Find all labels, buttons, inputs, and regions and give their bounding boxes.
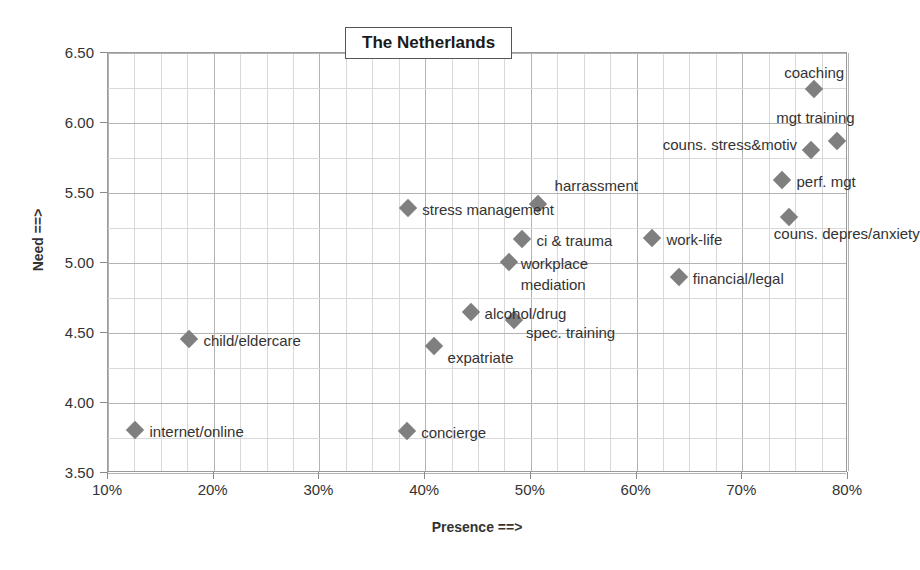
x-axis-tick bbox=[847, 472, 848, 479]
y-axis-title: Need ==> bbox=[30, 180, 46, 300]
y-axis-tick-label: 4.00 bbox=[34, 394, 94, 411]
x-axis-tick bbox=[107, 472, 108, 479]
data-point-label: mgt training bbox=[776, 109, 854, 126]
y-axis-tick bbox=[100, 332, 107, 333]
data-point-marker[interactable] bbox=[126, 420, 144, 438]
data-point-label: perf. mgt bbox=[796, 173, 855, 190]
data-point-label: spec. training bbox=[526, 324, 615, 341]
data-point-label: work-life bbox=[666, 230, 722, 247]
y-axis-tick bbox=[100, 402, 107, 403]
gridline-horizontal bbox=[108, 298, 846, 299]
y-axis-tick bbox=[100, 52, 107, 53]
gridline-vertical bbox=[187, 53, 188, 471]
gridline-horizontal bbox=[108, 368, 846, 369]
gridline-horizontal bbox=[108, 193, 846, 194]
x-axis-tick bbox=[636, 472, 637, 479]
gridline-vertical bbox=[319, 53, 320, 471]
gridline-horizontal bbox=[108, 263, 846, 264]
gridline-horizontal bbox=[108, 403, 846, 404]
data-point-label: coaching bbox=[784, 64, 844, 81]
gridline-horizontal bbox=[108, 123, 846, 124]
gridline-vertical bbox=[108, 53, 109, 471]
data-point-label: ci & trauma bbox=[536, 232, 612, 249]
x-axis-tick-label: 20% bbox=[183, 481, 243, 498]
y-axis-tick-label: 6.50 bbox=[34, 44, 94, 61]
gridline-vertical bbox=[161, 53, 162, 471]
gridline-vertical bbox=[689, 53, 690, 471]
x-axis-tick-label: 10% bbox=[77, 481, 137, 498]
x-axis-tick bbox=[213, 472, 214, 479]
gridline-horizontal bbox=[108, 228, 846, 229]
data-point-label: financial/legal bbox=[693, 270, 784, 287]
x-axis-tick bbox=[424, 472, 425, 479]
data-point-label: stress management bbox=[422, 201, 554, 218]
gridline-vertical bbox=[637, 53, 638, 471]
data-point-marker[interactable] bbox=[670, 268, 688, 286]
data-point-marker[interactable] bbox=[424, 336, 442, 354]
gridline-vertical bbox=[425, 53, 426, 471]
data-point-label: couns. depres/anxiety bbox=[774, 224, 920, 241]
data-point-label: concierge bbox=[421, 424, 486, 441]
y-axis-tick bbox=[100, 472, 107, 473]
x-axis-title: Presence ==> bbox=[107, 519, 847, 535]
gridline-vertical bbox=[346, 53, 347, 471]
x-axis-tick-label: 40% bbox=[394, 481, 454, 498]
gridline-vertical bbox=[742, 53, 743, 471]
plot-area: coachingmgt trainingcouns. stress&motivp… bbox=[107, 52, 847, 472]
x-axis-tick-label: 30% bbox=[288, 481, 348, 498]
x-axis-tick-label: 80% bbox=[817, 481, 877, 498]
data-point-marker[interactable] bbox=[773, 171, 791, 189]
y-axis-tick bbox=[100, 262, 107, 263]
gridline-vertical bbox=[663, 53, 664, 471]
x-axis-tick bbox=[530, 472, 531, 479]
x-axis-tick bbox=[318, 472, 319, 479]
data-point-marker[interactable] bbox=[802, 140, 820, 158]
y-axis-tick-label: 4.50 bbox=[34, 324, 94, 341]
y-axis-tick-label: 6.00 bbox=[34, 114, 94, 131]
gridline-vertical bbox=[214, 53, 215, 471]
gridline-horizontal bbox=[108, 473, 846, 474]
chart-title: The Netherlands bbox=[345, 27, 512, 59]
data-point-marker[interactable] bbox=[499, 252, 517, 270]
gridline-vertical bbox=[452, 53, 453, 471]
x-axis-tick-label: 50% bbox=[500, 481, 560, 498]
data-point-label: child/eldercare bbox=[203, 331, 301, 348]
data-point-label: workplace bbox=[521, 254, 589, 271]
data-point-marker[interactable] bbox=[399, 199, 417, 217]
data-point-label: internet/online bbox=[149, 422, 243, 439]
data-point-label: alcohol/drug bbox=[485, 305, 567, 322]
data-point-label: mediation bbox=[521, 275, 586, 292]
gridline-vertical bbox=[769, 53, 770, 471]
gridline-vertical bbox=[716, 53, 717, 471]
data-point-label: harrassment bbox=[555, 177, 638, 194]
gridline-vertical bbox=[134, 53, 135, 471]
data-point-marker[interactable] bbox=[828, 132, 846, 150]
y-axis-tick-label: 3.50 bbox=[34, 464, 94, 481]
data-point-marker[interactable] bbox=[643, 229, 661, 247]
gridline-vertical bbox=[372, 53, 373, 471]
gridline-horizontal bbox=[108, 158, 846, 159]
x-axis-tick-label: 60% bbox=[606, 481, 666, 498]
gridline-horizontal bbox=[108, 88, 846, 89]
gridline-vertical bbox=[478, 53, 479, 471]
gridline-vertical bbox=[293, 53, 294, 471]
x-axis-tick-label: 70% bbox=[711, 481, 771, 498]
gridline-vertical bbox=[240, 53, 241, 471]
y-axis-tick bbox=[100, 122, 107, 123]
data-point-marker[interactable] bbox=[513, 230, 531, 248]
x-axis-tick bbox=[741, 472, 742, 479]
gridline-vertical bbox=[267, 53, 268, 471]
gridline-vertical bbox=[399, 53, 400, 471]
gridline-vertical bbox=[610, 53, 611, 471]
data-point-label: couns. stress&motiv bbox=[663, 135, 797, 152]
y-axis-tick bbox=[100, 192, 107, 193]
data-point-label: expatriate bbox=[448, 348, 514, 365]
